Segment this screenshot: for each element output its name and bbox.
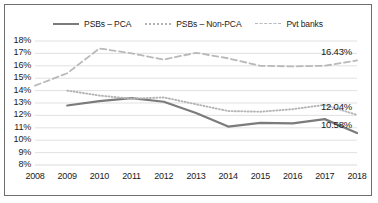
plot-area: 18%17%16%15%14%13%12%11%10%9%8%200820092… xyxy=(5,5,371,195)
data-point-label: 16.43% xyxy=(321,46,352,57)
x-axis-tick-label: 2018 xyxy=(342,171,372,181)
y-axis-tick-label: 10% xyxy=(9,134,31,144)
x-axis-tick-label: 2016 xyxy=(278,171,308,181)
y-axis-tick-label: 18% xyxy=(9,35,31,45)
series-line xyxy=(35,48,357,85)
data-point-label: 10.58% xyxy=(321,119,352,130)
chart-container: PSBs – PCA PSBs – Non-PCA Pvt banks 18%1… xyxy=(4,4,372,196)
y-axis-tick-label: 11% xyxy=(9,122,31,132)
x-axis-tick-label: 2017 xyxy=(310,171,340,181)
y-axis-tick-label: 14% xyxy=(9,85,31,95)
x-axis-tick-label: 2009 xyxy=(52,171,82,181)
x-axis-tick-label: 2014 xyxy=(213,171,243,181)
y-axis-tick-label: 13% xyxy=(9,97,31,107)
x-axis-tick-label: 2015 xyxy=(245,171,275,181)
y-axis-tick-label: 9% xyxy=(9,147,31,157)
y-axis-tick-label: 8% xyxy=(9,159,31,169)
y-axis-tick-label: 17% xyxy=(9,47,31,57)
data-point-label: 12.04% xyxy=(321,101,352,112)
x-axis-tick-label: 2012 xyxy=(149,171,179,181)
y-axis-tick-label: 16% xyxy=(9,60,31,70)
x-axis-tick-label: 2010 xyxy=(84,171,114,181)
x-axis-tick-label: 2008 xyxy=(20,171,50,181)
x-axis-tick-label: 2011 xyxy=(117,171,147,181)
y-axis-tick-label: 15% xyxy=(9,72,31,82)
y-axis-tick-label: 12% xyxy=(9,109,31,119)
x-axis-tick-label: 2013 xyxy=(181,171,211,181)
plot-svg xyxy=(5,5,371,195)
